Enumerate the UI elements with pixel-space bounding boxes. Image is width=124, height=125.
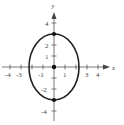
y-axis-arrow-icon — [52, 12, 57, 19]
x-tick-label-3: 3 — [85, 71, 89, 79]
x-tick-label-neg3: -3 — [16, 71, 22, 79]
x-tick-label-neg4: -4 — [5, 71, 11, 79]
x-tick-label-neg1: -1 — [38, 71, 44, 79]
y-tick-label-neg4: -4 — [41, 108, 47, 116]
y-tick-label-neg2: -2 — [41, 86, 47, 94]
bottom-vertex-point — [52, 98, 56, 102]
x-tick-label-4: 4 — [96, 71, 100, 79]
y-tick-label-1: 1 — [45, 53, 49, 61]
y-tick-label-2: 2 — [45, 42, 49, 50]
y-axis-label: y — [51, 2, 56, 10]
ellipse-graph: x y -4 -3 -1 1 3 4 4 2 1 -2 -4 — [0, 0, 124, 125]
x-axis-arrow-icon — [103, 65, 110, 70]
top-vertex-point — [52, 32, 56, 36]
center-point — [52, 65, 56, 69]
y-tick-label-4: 4 — [45, 20, 49, 28]
x-tick-label-1: 1 — [63, 71, 67, 79]
x-axis-label: x — [111, 64, 116, 72]
